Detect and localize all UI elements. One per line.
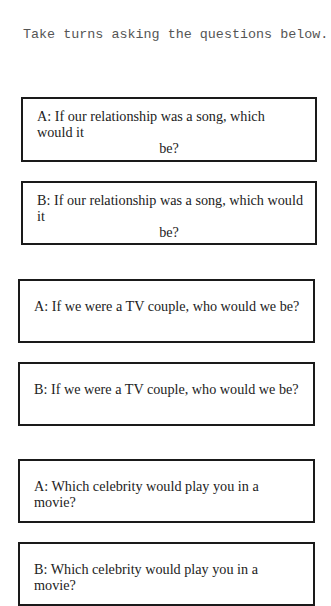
question-line-2: be? [35,224,303,240]
question-box-tv-b: B: If we were a TV couple, who would we … [18,362,315,426]
question-box-song-b: B: If our relationship was a song, which… [21,181,317,245]
question-text: B: Which celebrity would play you in a m… [20,544,313,593]
question-line-1: A: If our relationship was a song, which… [35,108,303,140]
question-text: A: If our relationship was a song, which… [23,99,315,156]
question-text: A: If we were a TV couple, who would we … [20,281,313,314]
question-box-celebrity-b: B: Which celebrity would play you in a m… [18,542,315,606]
question-box-celebrity-a: A: Which celebrity would play you in a m… [18,459,315,523]
question-line-1: B: If our relationship was a song, which… [35,192,303,224]
question-text: A: Which celebrity would play you in a m… [20,461,313,510]
question-text: B: If we were a TV couple, who would we … [20,364,313,397]
question-line-2: be? [35,140,303,156]
question-box-tv-a: A: If we were a TV couple, who would we … [18,279,315,343]
question-text: B: If our relationship was a song, which… [23,183,315,240]
instructions-text: Take turns asking the questions below. [23,27,323,43]
question-box-song-a: A: If our relationship was a song, which… [21,97,317,162]
